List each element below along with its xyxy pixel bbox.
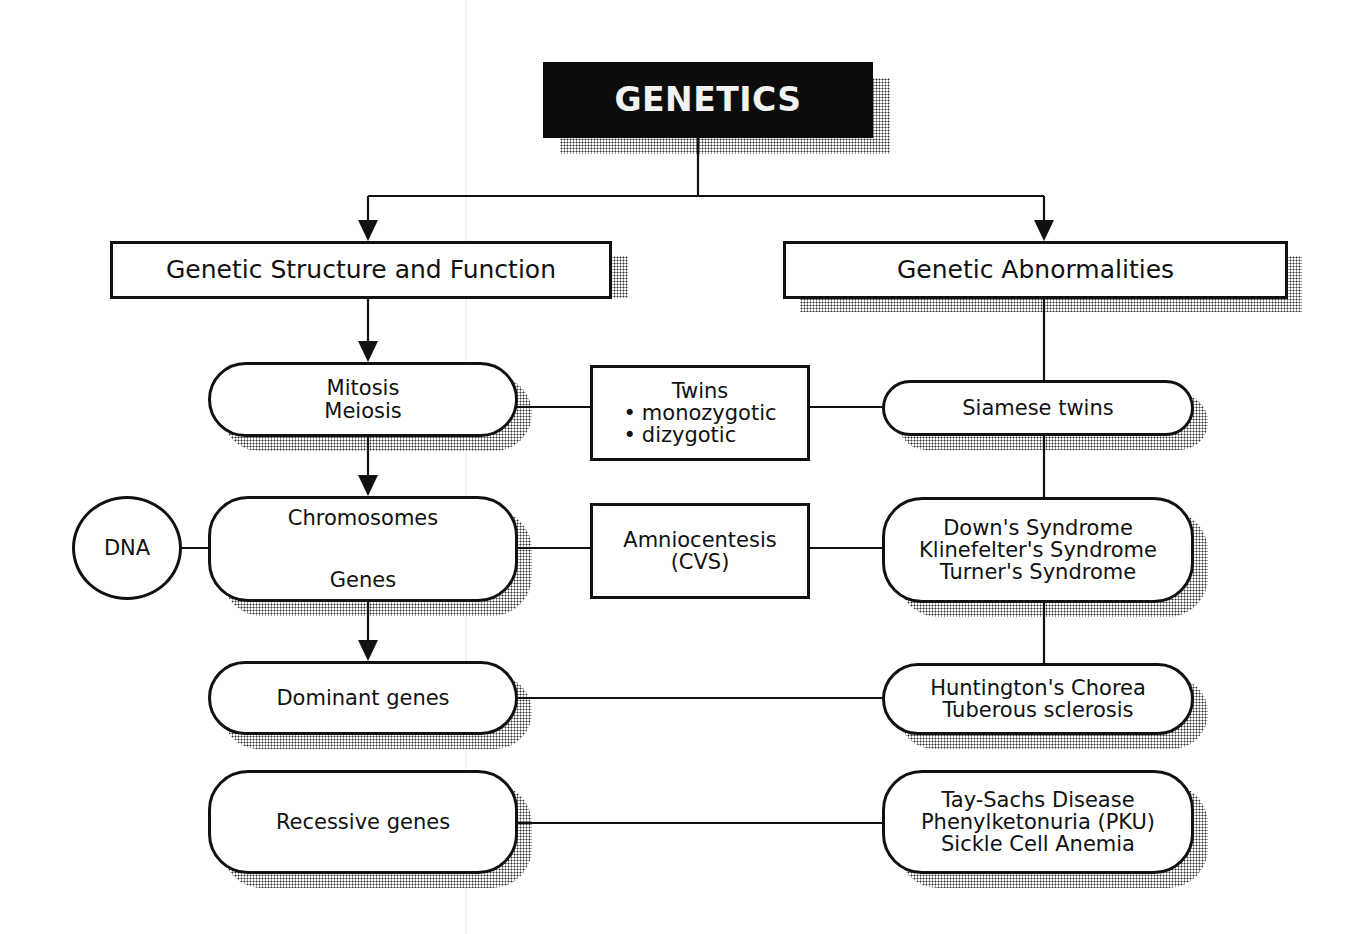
arrow-down-icon	[358, 341, 378, 362]
arrow-down-icon	[358, 640, 378, 661]
node-text: Mitosis	[327, 377, 400, 399]
node-recessive-genes: Recessive genes	[208, 770, 518, 874]
node-text: Down's Syndrome	[943, 517, 1133, 539]
node-amniocentesis: Amniocentesis (CVS)	[590, 503, 810, 599]
bullet-item: monozygotic	[623, 402, 776, 424]
node-text: Sickle Cell Anemia	[941, 833, 1135, 855]
node-text: Turner's Syndrome	[940, 561, 1136, 583]
node-text: Phenylketonuria (PKU)	[921, 811, 1155, 833]
title-box: GENETICS	[543, 62, 873, 138]
node-recessive-disorders: Tay-Sachs Disease Phenylketonuria (PKU) …	[882, 770, 1194, 874]
node-text: Recessive genes	[276, 811, 450, 833]
node-text-chromosomes: Chromosomes	[288, 507, 438, 529]
node-heading: Twins	[672, 380, 729, 402]
twins-bullet-list: monozygotic dizygotic	[623, 402, 776, 446]
category-genetic-structure: Genetic Structure and Function	[110, 241, 612, 299]
node-text: Huntington's Chorea	[930, 677, 1146, 699]
genetics-concept-map: GENETICS Genetic Structure and Function …	[0, 0, 1361, 934]
category-label: Genetic Abnormalities	[897, 257, 1174, 283]
node-siamese-twins: Siamese twins	[882, 380, 1194, 436]
title-text: GENETICS	[614, 83, 801, 118]
bullet-item: dizygotic	[623, 424, 736, 446]
arrow-down-icon	[358, 220, 378, 241]
node-text: Amniocentesis	[623, 529, 776, 551]
node-twins: Twins monozygotic dizygotic	[590, 365, 810, 461]
node-text: Tuberous sclerosis	[942, 699, 1133, 721]
arrow-down-icon	[358, 475, 378, 496]
category-label: Genetic Structure and Function	[166, 257, 556, 283]
node-dominant-genes: Dominant genes	[208, 661, 518, 735]
node-text: Dominant genes	[276, 687, 449, 709]
node-text: (CVS)	[671, 551, 730, 573]
node-text-genes: Genes	[330, 569, 396, 591]
node-text: Klinefelter's Syndrome	[919, 539, 1157, 561]
node-text: DNA	[104, 537, 150, 559]
node-dominant-disorders: Huntington's Chorea Tuberous sclerosis	[882, 663, 1194, 735]
node-text: Tay-Sachs Disease	[941, 789, 1134, 811]
node-chromosomes-genes: Chromosomes Genes	[208, 496, 518, 602]
category-genetic-abnormalities: Genetic Abnormalities	[783, 241, 1288, 299]
node-dna: DNA	[72, 496, 182, 600]
node-text: Siamese twins	[962, 397, 1113, 419]
node-text: Meiosis	[324, 400, 401, 422]
node-cell-division: Mitosis Meiosis	[208, 362, 518, 437]
node-chromosomal-syndromes: Down's Syndrome Klinefelter's Syndrome T…	[882, 497, 1194, 603]
arrow-down-icon	[1034, 220, 1054, 241]
